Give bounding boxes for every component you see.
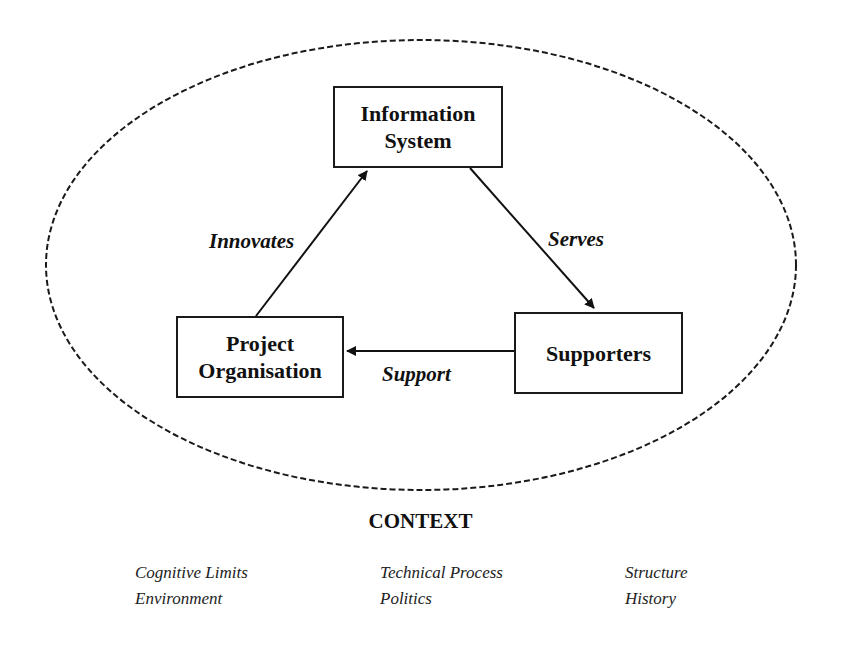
- node-project-organisation: Project Organisation: [176, 316, 344, 398]
- context-item: Structure: [625, 563, 688, 583]
- node-label-line: Information: [361, 100, 476, 127]
- context-item: Politics: [380, 589, 432, 609]
- context-item: History: [625, 589, 676, 609]
- edge-label-serves: Serves: [548, 227, 604, 252]
- node-label-line: System: [361, 127, 476, 154]
- edge-label-innovates: Innovates: [209, 229, 294, 254]
- context-item: Cognitive Limits: [135, 563, 248, 583]
- context-title: CONTEXT: [0, 509, 841, 534]
- context-item: Technical Process: [380, 563, 503, 583]
- node-information-system: Information System: [333, 86, 503, 168]
- node-label-line: Project: [198, 330, 321, 357]
- context-item: Environment: [135, 589, 222, 609]
- node-label-line: Supporters: [546, 340, 651, 367]
- edge-label-support: Support: [382, 362, 451, 387]
- node-label-line: Organisation: [198, 357, 321, 384]
- node-supporters: Supporters: [514, 312, 683, 394]
